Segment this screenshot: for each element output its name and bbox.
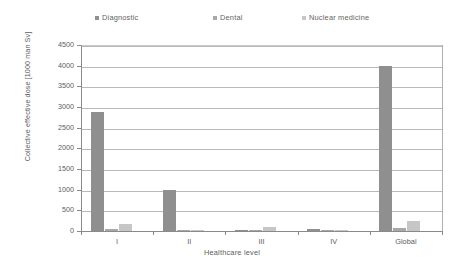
y-axis-tick-label: 4500 [44, 41, 74, 48]
bar-dental-global [393, 228, 406, 231]
bar-diagnostic-iii [235, 230, 248, 231]
legend-item-dental: Dental [213, 13, 243, 22]
x-axis-title: Healthcare level [0, 248, 464, 257]
y-axis-title: Collective effective dose [1000 man Sv] [23, 7, 32, 187]
y-axis-tick-mark [77, 45, 81, 46]
y-axis-tick-mark [77, 148, 81, 149]
chart-legend: Diagnostic Dental Nuclear medicine [0, 13, 464, 27]
bar-diagnostic-ii [163, 190, 176, 231]
y-axis-tick-mark [77, 210, 81, 211]
x-axis-tick-label-iii: III [232, 237, 292, 246]
y-axis-tick-mark [77, 128, 81, 129]
y-axis-tick-label: 1000 [44, 186, 74, 193]
bar-nuclear-medicine-i [119, 224, 132, 231]
legend-swatch-diagnostic [95, 16, 99, 20]
bar-dental-iii [249, 230, 262, 231]
legend-label-nuclear-medicine: Nuclear medicine [309, 13, 369, 22]
bar-nuclear-medicine-iv [335, 230, 348, 231]
legend-label-dental: Dental [220, 13, 243, 22]
bar-diagnostic-global [379, 66, 392, 231]
x-axis-tick-mark [442, 231, 443, 235]
bar-dental-iv [321, 230, 334, 231]
y-axis-tick-label: 0 [44, 227, 74, 234]
x-axis-tick-label-iv: IV [304, 237, 364, 246]
bar-diagnostic-iv [307, 229, 320, 231]
gridline [82, 46, 443, 47]
y-axis-tick-label: 500 [44, 206, 74, 213]
legend-item-nuclear-medicine: Nuclear medicine [302, 13, 369, 22]
bar-dental-ii [177, 230, 190, 231]
legend-swatch-dental [213, 16, 217, 20]
x-axis-tick-mark [153, 231, 154, 235]
legend-swatch-nuclear-medicine [302, 16, 306, 20]
x-axis-tick-mark [81, 231, 82, 235]
bar-dental-i [105, 229, 118, 231]
bar-diagnostic-i [91, 112, 104, 231]
x-axis-tick-label-ii: II [159, 237, 219, 246]
plot-right-border [442, 45, 443, 232]
y-axis-tick-label: 2000 [44, 144, 74, 151]
y-axis-tick-mark [77, 66, 81, 67]
x-axis-tick-label-global: Global [376, 237, 436, 246]
y-axis-tick-label: 2500 [44, 124, 74, 131]
y-axis-tick-mark [77, 169, 81, 170]
bar-nuclear-medicine-ii [191, 230, 204, 231]
legend-label-diagnostic: Diagnostic [102, 13, 139, 22]
x-axis-line [81, 231, 443, 232]
x-axis-tick-mark [225, 231, 226, 235]
y-axis-tick-label: 3000 [44, 103, 74, 110]
bar-nuclear-medicine-global [407, 221, 420, 231]
y-axis-tick-mark [77, 190, 81, 191]
y-axis-tick-mark [77, 107, 81, 108]
bar-chart: Diagnostic Dental Nuclear medicine Colle… [0, 0, 464, 270]
bar-nuclear-medicine-iii [263, 227, 276, 231]
x-axis-tick-mark [298, 231, 299, 235]
y-axis-tick-mark [77, 86, 81, 87]
x-axis-tick-label-i: I [87, 237, 147, 246]
x-axis-tick-mark [370, 231, 371, 235]
legend-item-diagnostic: Diagnostic [95, 13, 139, 22]
y-axis-tick-label: 1500 [44, 165, 74, 172]
y-axis-tick-label: 3500 [44, 82, 74, 89]
y-axis-tick-label: 4000 [44, 62, 74, 69]
